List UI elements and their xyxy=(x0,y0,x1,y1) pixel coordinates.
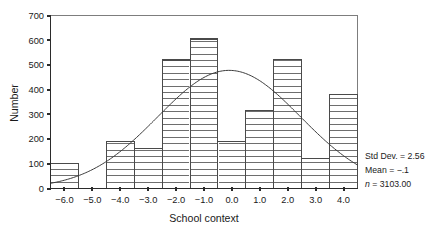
x-tick-label: 3.0 xyxy=(309,195,322,205)
x-tick-label: −3.0 xyxy=(139,195,157,205)
bar xyxy=(51,164,79,189)
x-tick-label: 1.0 xyxy=(253,195,266,205)
bar xyxy=(134,148,162,188)
x-axis-title: School context xyxy=(169,212,239,224)
bar xyxy=(246,111,274,189)
y-axis-title: Number xyxy=(8,84,20,122)
x-tick-label: −2.0 xyxy=(167,195,185,205)
y-tick-label: 500 xyxy=(28,60,44,70)
bar xyxy=(330,95,358,189)
bar xyxy=(162,60,190,189)
y-tick-label: 300 xyxy=(28,110,44,120)
x-tick-label: −4.0 xyxy=(111,195,129,205)
x-tick-label: 2.0 xyxy=(281,195,294,205)
n-label: n = 3103.00 xyxy=(365,179,411,189)
x-tick-label: 4.0 xyxy=(337,195,350,205)
bar xyxy=(274,59,302,188)
bars-layer xyxy=(51,39,358,189)
y-axis-ticks: 0100200300400500600700 xyxy=(28,11,51,194)
bar xyxy=(302,159,330,189)
x-axis-ticks: −6.0−5.0−4.0−3.0−2.0−1.00.01.02.03.04.0 xyxy=(55,187,350,205)
x-tick-label: −1.0 xyxy=(195,195,213,205)
y-tick-label: 400 xyxy=(28,85,44,95)
bar xyxy=(106,142,134,189)
std-dev-label: Std Dev. = 2.56 xyxy=(365,151,425,161)
x-axis: −6.0−5.0−4.0−3.0−2.0−1.00.01.02.03.04.0 xyxy=(50,187,358,205)
x-tick-label: 0.0 xyxy=(225,195,238,205)
y-tick-label: 600 xyxy=(28,36,44,46)
bar xyxy=(190,39,218,189)
y-tick-label: 0 xyxy=(39,184,44,194)
y-tick-label: 200 xyxy=(28,134,44,144)
y-axis: 0100200300400500600700 xyxy=(28,11,51,194)
x-tick-label: −6.0 xyxy=(55,195,73,205)
histogram-figure: 0100200300400500600700 −6.0−5.0−4.0−3.0−… xyxy=(0,0,443,229)
chart-svg: 0100200300400500600700 −6.0−5.0−4.0−3.0−… xyxy=(0,0,443,229)
y-tick-label: 100 xyxy=(28,159,44,169)
bar xyxy=(218,142,246,189)
n-value: = 3103.00 xyxy=(370,179,411,189)
x-tick-label: −5.0 xyxy=(83,195,101,205)
mean-label: Mean = −.1 xyxy=(365,165,409,175)
y-tick-label: 700 xyxy=(28,11,44,21)
stats-legend: Std Dev. = 2.56 Mean = −.1 n = 3103.00 xyxy=(365,151,425,189)
